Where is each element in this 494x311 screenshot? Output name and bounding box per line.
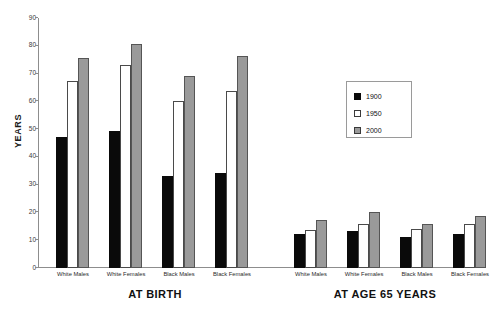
y-tick-label-90: 90	[12, 15, 36, 22]
y-tick-mark-80	[35, 45, 38, 46]
legend-item-2000: 2000	[354, 122, 411, 139]
bar-1950-white-males	[305, 230, 316, 268]
bar-cluster-0-0: White Males	[56, 18, 89, 268]
legend-label-2000: 2000	[366, 127, 382, 134]
y-tick-mark-60	[35, 100, 38, 101]
y-tick-mark-20	[35, 211, 38, 212]
y-tick-label-50: 50	[12, 126, 36, 133]
group-title-at-birth: AT BIRTH	[40, 288, 270, 300]
bar-1950-black-females	[226, 91, 237, 268]
y-axis-line	[38, 18, 39, 268]
bar-cluster-0-1: White Females	[109, 18, 142, 268]
y-tick-label-10: 10	[12, 237, 36, 244]
legend-swatch-1950-icon	[354, 110, 361, 117]
bar-1900-black-females	[215, 173, 226, 268]
chart-legend: 1900 1950 2000	[346, 81, 412, 138]
bar-1900-white-males	[294, 234, 305, 268]
bar-2000-black-males	[422, 224, 433, 268]
y-tick-mark-40	[35, 156, 38, 157]
y-tick-mark-70	[35, 73, 38, 74]
bar-cluster-1-3: Black Females	[453, 18, 486, 268]
bar-2000-white-males	[78, 58, 89, 268]
legend-label-1950: 1950	[366, 110, 382, 117]
bar-1950-black-males	[411, 229, 422, 269]
bar-2000-black-females	[237, 56, 248, 268]
x-category-label-0-3: Black Females	[200, 271, 264, 277]
legend-label-1900: 1900	[366, 93, 382, 100]
bar-1900-black-females	[453, 234, 464, 268]
bar-cluster-0-2: Black Males	[162, 18, 195, 268]
y-tick-mark-0	[35, 267, 38, 268]
bar-cluster-1-1: White Females	[347, 18, 380, 268]
bar-1900-black-males	[400, 237, 411, 268]
bar-1900-black-males	[162, 176, 173, 268]
bar-2000-white-females	[131, 44, 142, 268]
y-tick-mark-90	[35, 17, 38, 18]
bar-1900-white-males	[56, 137, 67, 268]
bar-1950-white-females	[120, 65, 131, 268]
y-tick-label-40: 40	[12, 153, 36, 160]
y-tick-mark-50	[35, 128, 38, 129]
y-tick-label-60: 60	[12, 98, 36, 105]
y-tick-mark-30	[35, 184, 38, 185]
bar-2000-white-males	[316, 220, 327, 268]
bar-1950-white-females	[358, 224, 369, 268]
bar-cluster-1-2: Black Males	[400, 18, 433, 268]
bar-cluster-0-3: Black Females	[215, 18, 248, 268]
bar-2000-black-females	[475, 216, 486, 268]
bar-2000-white-females	[369, 212, 380, 268]
bar-1950-white-males	[67, 81, 78, 268]
legend-swatch-1900-icon	[354, 93, 361, 100]
bar-2000-black-males	[184, 76, 195, 268]
y-tick-label-30: 30	[12, 181, 36, 188]
bar-1900-white-females	[109, 131, 120, 268]
bar-1950-black-females	[464, 224, 475, 268]
legend-item-1950: 1950	[354, 105, 411, 122]
y-tick-label-70: 70	[12, 70, 36, 77]
y-tick-label-0: 0	[12, 265, 36, 272]
x-category-label-1-3: Black Females	[438, 271, 494, 277]
group-title-at-age-65: AT AGE 65 YEARS	[290, 288, 480, 300]
legend-swatch-2000-icon	[354, 127, 361, 134]
legend-item-1900: 1900	[354, 88, 411, 105]
plot-area: 0102030405060708090 White MalesWhite Fem…	[38, 18, 474, 268]
y-tick-label-80: 80	[12, 42, 36, 49]
y-tick-mark-10	[35, 239, 38, 240]
bar-1900-white-females	[347, 231, 358, 268]
bar-cluster-1-0: White Males	[294, 18, 327, 268]
bar-1950-black-males	[173, 101, 184, 268]
y-tick-label-20: 20	[12, 209, 36, 216]
